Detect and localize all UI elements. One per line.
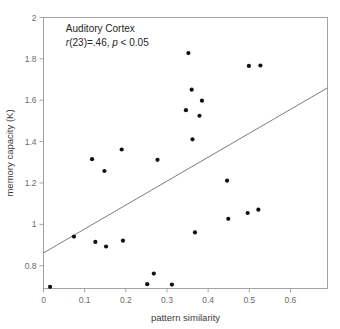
- y-tick-label: 1.8: [25, 54, 37, 64]
- data-point: [90, 157, 94, 161]
- data-point: [152, 272, 156, 276]
- data-point: [170, 282, 174, 286]
- plot-canvas: 00.10.20.30.40.50.60.811.21.41.61.82patt…: [0, 0, 340, 329]
- data-point: [72, 234, 76, 238]
- y-axis-title: memory capacity (K): [4, 109, 15, 196]
- trend-line: [44, 88, 328, 253]
- data-point: [93, 240, 97, 244]
- data-point: [104, 244, 108, 248]
- data-point: [121, 239, 125, 243]
- x-tick-label: 0.2: [120, 295, 132, 305]
- data-point: [197, 114, 201, 118]
- x-tick-label: 0: [41, 295, 46, 305]
- data-point: [190, 137, 194, 141]
- scatter-plot-figure: 00.10.20.30.40.50.60.811.21.41.61.82patt…: [0, 0, 340, 329]
- data-point: [184, 108, 188, 112]
- data-point: [186, 51, 190, 55]
- data-point: [193, 230, 197, 234]
- data-point: [247, 64, 251, 68]
- x-tick-label: 0.3: [161, 295, 173, 305]
- data-point: [225, 179, 229, 183]
- data-point: [145, 282, 149, 286]
- y-tick-label: 1.6: [25, 95, 37, 105]
- data-point: [190, 88, 194, 92]
- data-point: [155, 158, 159, 162]
- data-point: [256, 208, 260, 212]
- data-point: [120, 147, 124, 151]
- x-tick-label: 0.1: [79, 295, 91, 305]
- chart-annotation-1: r(23)=.46, p < 0.05: [66, 37, 149, 48]
- data-point: [102, 169, 106, 173]
- x-tick-label: 0.4: [202, 295, 214, 305]
- x-tick-label: 0.6: [285, 295, 297, 305]
- y-tick-label: 2: [32, 13, 37, 23]
- data-point: [226, 217, 230, 221]
- y-tick-label: 0.8: [25, 261, 37, 271]
- y-tick-label: 1: [32, 219, 37, 229]
- data-point: [246, 211, 250, 215]
- x-axis-title: pattern similarity: [151, 312, 220, 323]
- plot-frame: [44, 18, 328, 289]
- y-tick-label: 1.4: [25, 137, 37, 147]
- data-point: [258, 63, 262, 67]
- data-point: [200, 99, 204, 103]
- chart-annotation-0: Auditory Cortex: [66, 23, 135, 34]
- data-point: [48, 285, 52, 289]
- x-tick-label: 0.5: [243, 295, 255, 305]
- y-tick-label: 1.2: [25, 178, 37, 188]
